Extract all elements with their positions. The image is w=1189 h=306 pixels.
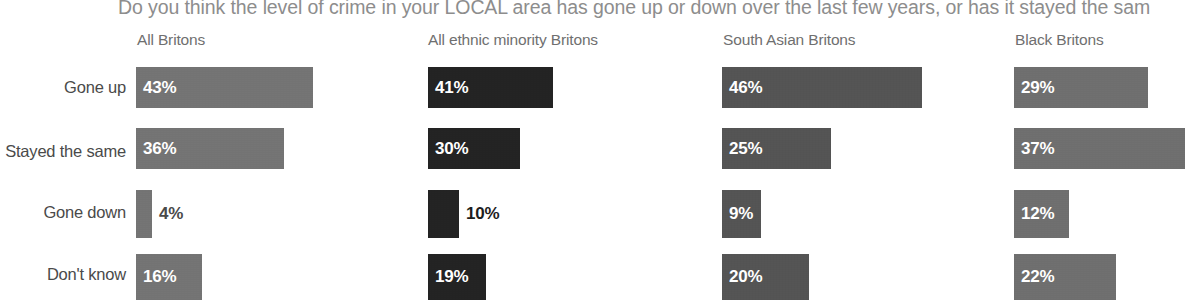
bar-value-label: 43% <box>143 78 176 98</box>
bar-value-label: 29% <box>1021 78 1054 98</box>
bar: 19% <box>428 254 486 300</box>
bar: 25% <box>722 128 831 169</box>
bar-texture <box>136 190 152 238</box>
bar: 46% <box>722 67 922 108</box>
bar-value-label: 36% <box>143 139 176 159</box>
bar-value-label: 12% <box>1021 204 1054 224</box>
bar: 10% <box>428 190 459 238</box>
bar: 20% <box>722 254 809 300</box>
bar: 9% <box>722 190 761 238</box>
column-header: South Asian Britons <box>723 31 855 49</box>
bar-value-label: 25% <box>729 139 762 159</box>
bar: 36% <box>136 128 284 169</box>
bar-value-label: 30% <box>435 139 468 159</box>
bar-value-label: 10% <box>466 204 499 224</box>
bar-value-label: 4% <box>159 204 183 224</box>
row-label: Gone up <box>0 78 126 97</box>
bar: 43% <box>136 67 313 108</box>
row-label: Stayed the same <box>0 142 126 161</box>
row-label: Gone down <box>0 203 126 222</box>
chart-title: Do you think the level of crime in your … <box>118 0 1189 20</box>
bar-texture <box>428 190 459 238</box>
bar-value-label: 46% <box>729 78 762 98</box>
row-label: Don't know <box>0 265 126 284</box>
column-header: All ethnic minority Britons <box>428 31 598 49</box>
bar-value-label: 41% <box>435 78 468 98</box>
bar-value-label: 16% <box>143 267 176 287</box>
bar: 29% <box>1014 67 1148 108</box>
bar-value-label: 37% <box>1021 139 1054 159</box>
bar-value-label: 19% <box>435 267 468 287</box>
bar: 4% <box>136 190 152 238</box>
bar: 12% <box>1014 190 1069 238</box>
column-header: Black Britons <box>1015 31 1104 49</box>
bar-value-label: 9% <box>729 204 753 224</box>
bar: 37% <box>1014 128 1185 169</box>
bar: 41% <box>428 67 553 108</box>
column-header: All Britons <box>137 31 205 49</box>
bar-value-label: 20% <box>729 267 762 287</box>
chart-container: Do you think the level of crime in your … <box>0 0 1189 306</box>
bar: 22% <box>1014 254 1116 300</box>
bar: 16% <box>136 254 202 300</box>
bar: 30% <box>428 128 520 169</box>
bar-value-label: 22% <box>1021 267 1054 287</box>
